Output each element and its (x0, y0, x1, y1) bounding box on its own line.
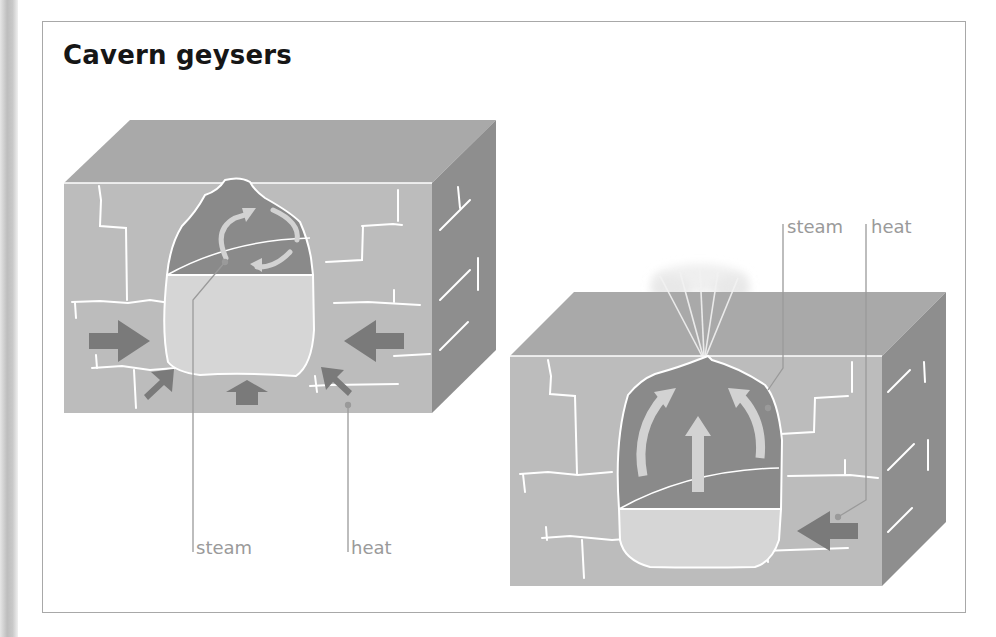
left-steam-label: steam (196, 537, 252, 558)
left-chamber-water (164, 275, 314, 376)
right-chamber-water (619, 509, 781, 568)
right-heat-label: heat (871, 216, 912, 237)
left-block-top-face (64, 120, 496, 183)
geyser-diagram (0, 0, 996, 637)
right-steam-label: steam (787, 216, 843, 237)
left-rock-block (64, 120, 496, 552)
right-rock-block (510, 224, 946, 586)
left-heat-label: heat (351, 537, 392, 558)
